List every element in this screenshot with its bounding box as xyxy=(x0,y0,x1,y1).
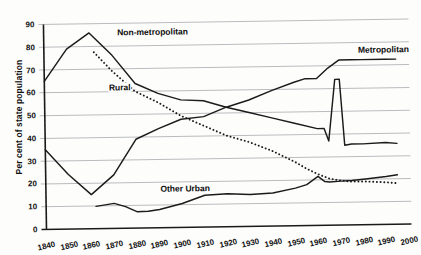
y-axis-tick-label: 10 xyxy=(17,202,37,211)
x-axis-tick-label: 1950 xyxy=(286,236,305,249)
y-axis-tick-label: 40 xyxy=(16,134,36,143)
x-axis-tick-label: 1940 xyxy=(264,236,283,249)
y-axis-tick-label: 0 xyxy=(17,225,37,234)
x-axis-tick-label: 1960 xyxy=(309,236,328,249)
plot-skew-wrapper: 0102030405060708090 Non-metropolitanMetr… xyxy=(0,0,421,255)
x-axis-tick-label: 1910 xyxy=(196,237,215,250)
y-axis-tick-label: 20 xyxy=(17,180,37,189)
x-axis-tick-label: 2000 xyxy=(400,234,419,247)
chart-container: Per cent of state population 01020304050… xyxy=(0,0,421,255)
x-axis-tick-label: 1890 xyxy=(150,238,169,251)
x-axis-tick-label: 1980 xyxy=(354,235,373,248)
y-axis-tick-label: 60 xyxy=(15,88,35,97)
x-axis-tick-label: 1880 xyxy=(128,238,147,251)
x-axis-tick-label: 1990 xyxy=(377,235,396,248)
x-axis-tick-label: 1920 xyxy=(218,237,237,250)
y-axis-tick-labels: 0102030405060708090 xyxy=(8,3,38,255)
y-axis-tick-label: 50 xyxy=(16,111,36,120)
x-axis-tick-label: 1860 xyxy=(82,239,101,252)
x-axis-tick-labels: 1840185018601870188018901900191019201930… xyxy=(38,0,412,255)
x-axis-tick-label: 1970 xyxy=(332,235,351,248)
x-axis-tick-label: 1840 xyxy=(37,240,56,253)
x-axis-tick-label: 1900 xyxy=(173,238,192,251)
y-axis-tick-label: 90 xyxy=(14,20,34,29)
x-axis-tick-label: 1850 xyxy=(59,239,78,252)
x-axis-tick-label: 1930 xyxy=(241,237,260,250)
y-axis-tick-label: 70 xyxy=(15,66,35,75)
x-axis-tick-label: 1870 xyxy=(105,239,124,252)
y-axis-tick-label: 80 xyxy=(15,43,35,52)
y-axis-tick-label: 30 xyxy=(16,157,36,166)
